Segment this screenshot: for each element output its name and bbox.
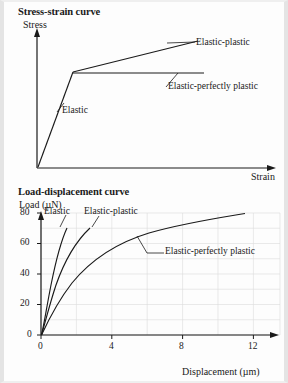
load-label-elastic-plastic: Elastic-plastic bbox=[84, 206, 138, 216]
stress-label-elastic: Elastic bbox=[62, 105, 88, 115]
load-ytick-0: 0 bbox=[27, 329, 32, 339]
load-leader-elastic-perfectly-plastic bbox=[137, 236, 164, 253]
load-label-elastic-perfectly-plastic: Elastic-perfectly plastic bbox=[165, 246, 255, 256]
stress-label-elastic-plastic: Elastic-plastic bbox=[196, 37, 250, 47]
load-ytick-80: 80 bbox=[20, 207, 30, 217]
load-ytick-60: 60 bbox=[20, 237, 30, 247]
load-label-elastic: Elastic bbox=[44, 206, 70, 216]
horizontal-gridlines bbox=[41, 213, 280, 335]
displacement-x-tickmarks bbox=[41, 335, 253, 339]
load-curve-elastic bbox=[42, 228, 68, 335]
displacement-xtick-12: 12 bbox=[248, 341, 258, 351]
load-displacement-panel: Load-displacement curve Load (µN) Displa… bbox=[4, 185, 284, 383]
figure-container: Stress-strain curve Stress Strain Elasti… bbox=[0, 0, 288, 383]
stress-y-axis-arrow bbox=[34, 28, 40, 37]
load-ytick-40: 40 bbox=[20, 268, 30, 278]
strain-x-axis-arrow bbox=[267, 165, 276, 171]
displacement-x-axis-arrow bbox=[270, 332, 279, 338]
stress-strain-plot bbox=[4, 2, 288, 190]
load-leader-elastic bbox=[60, 215, 66, 227]
displacement-xtick-8: 8 bbox=[179, 341, 184, 351]
stress-strain-panel: Stress-strain curve Stress Strain Elasti… bbox=[4, 2, 284, 190]
stress-curve-elastic bbox=[38, 72, 73, 167]
load-leader-elastic-plastic bbox=[92, 216, 99, 227]
stress-curve-elastic-plastic bbox=[73, 41, 198, 72]
stress-label-elastic-perfectly-plastic: Elastic-perfectly plastic bbox=[168, 81, 258, 91]
displacement-xtick-4: 4 bbox=[109, 341, 114, 351]
displacement-xtick-0: 0 bbox=[38, 341, 43, 351]
load-ytick-20: 20 bbox=[20, 298, 30, 308]
